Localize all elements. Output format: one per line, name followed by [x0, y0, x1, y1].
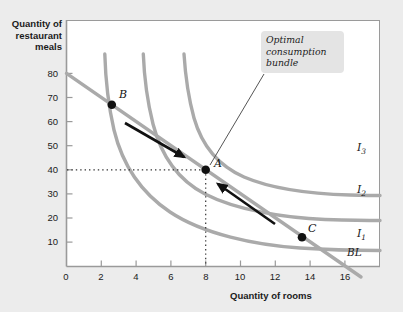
y-tick-label-70: 70	[34, 92, 58, 103]
annotation-optimal-consumption-bundle: Optimal consumption bundle	[261, 31, 344, 73]
x-tick-label-14: 14	[300, 271, 320, 282]
y-axis-ticks	[67, 73, 73, 242]
x-tick-label-16: 16	[335, 271, 355, 282]
x-tick-label-8: 8	[196, 271, 216, 282]
curve-label-i2: I2	[357, 183, 366, 198]
data-point-a[interactable]	[201, 166, 210, 175]
x-tick-label-0: 0	[56, 271, 76, 282]
x-tick-label-6: 6	[161, 271, 181, 282]
curve-label-i3-sub: 3	[361, 147, 366, 156]
y-axis-title-line-3: meals	[0, 41, 62, 53]
y-axis-title-line-1: Quantity of	[0, 18, 62, 30]
y-tick-label-20: 20	[34, 212, 58, 223]
x-tick-label-2: 2	[91, 271, 111, 282]
curve-label-i3: I3	[357, 141, 366, 156]
y-tick-label-40: 40	[34, 164, 58, 175]
point-label-a: A	[214, 157, 222, 170]
x-tick-label-4: 4	[126, 271, 146, 282]
y-tick-label-10: 10	[34, 236, 58, 247]
point-label-b: B	[119, 88, 127, 101]
data-point-b[interactable]	[108, 100, 117, 109]
x-tick-label-12: 12	[265, 271, 285, 282]
x-axis-title: Quantity of rooms	[230, 290, 312, 301]
y-axis-title: Quantity of restaurant meals	[0, 18, 62, 53]
x-axis-ticks	[101, 261, 345, 267]
y-tick-label-50: 50	[34, 140, 58, 151]
curve-label-i1: I1	[357, 227, 366, 242]
y-axis-title-line-2: restaurant	[0, 30, 62, 42]
y-tick-label-30: 30	[34, 188, 58, 199]
curve-label-bl: BL	[347, 246, 362, 258]
curve-label-i1-sub: 1	[361, 233, 366, 242]
y-tick-label-80: 80	[34, 68, 58, 79]
annotation-leader-line	[210, 74, 264, 165]
chart-screenshot: Quantity of restaurant meals Quantity of…	[0, 0, 403, 312]
data-point-c[interactable]	[298, 233, 307, 242]
curve-label-i2-sub: 2	[361, 189, 366, 198]
x-tick-label-10: 10	[230, 271, 250, 282]
y-tick-label-60: 60	[34, 116, 58, 127]
point-label-c: C	[308, 222, 316, 235]
